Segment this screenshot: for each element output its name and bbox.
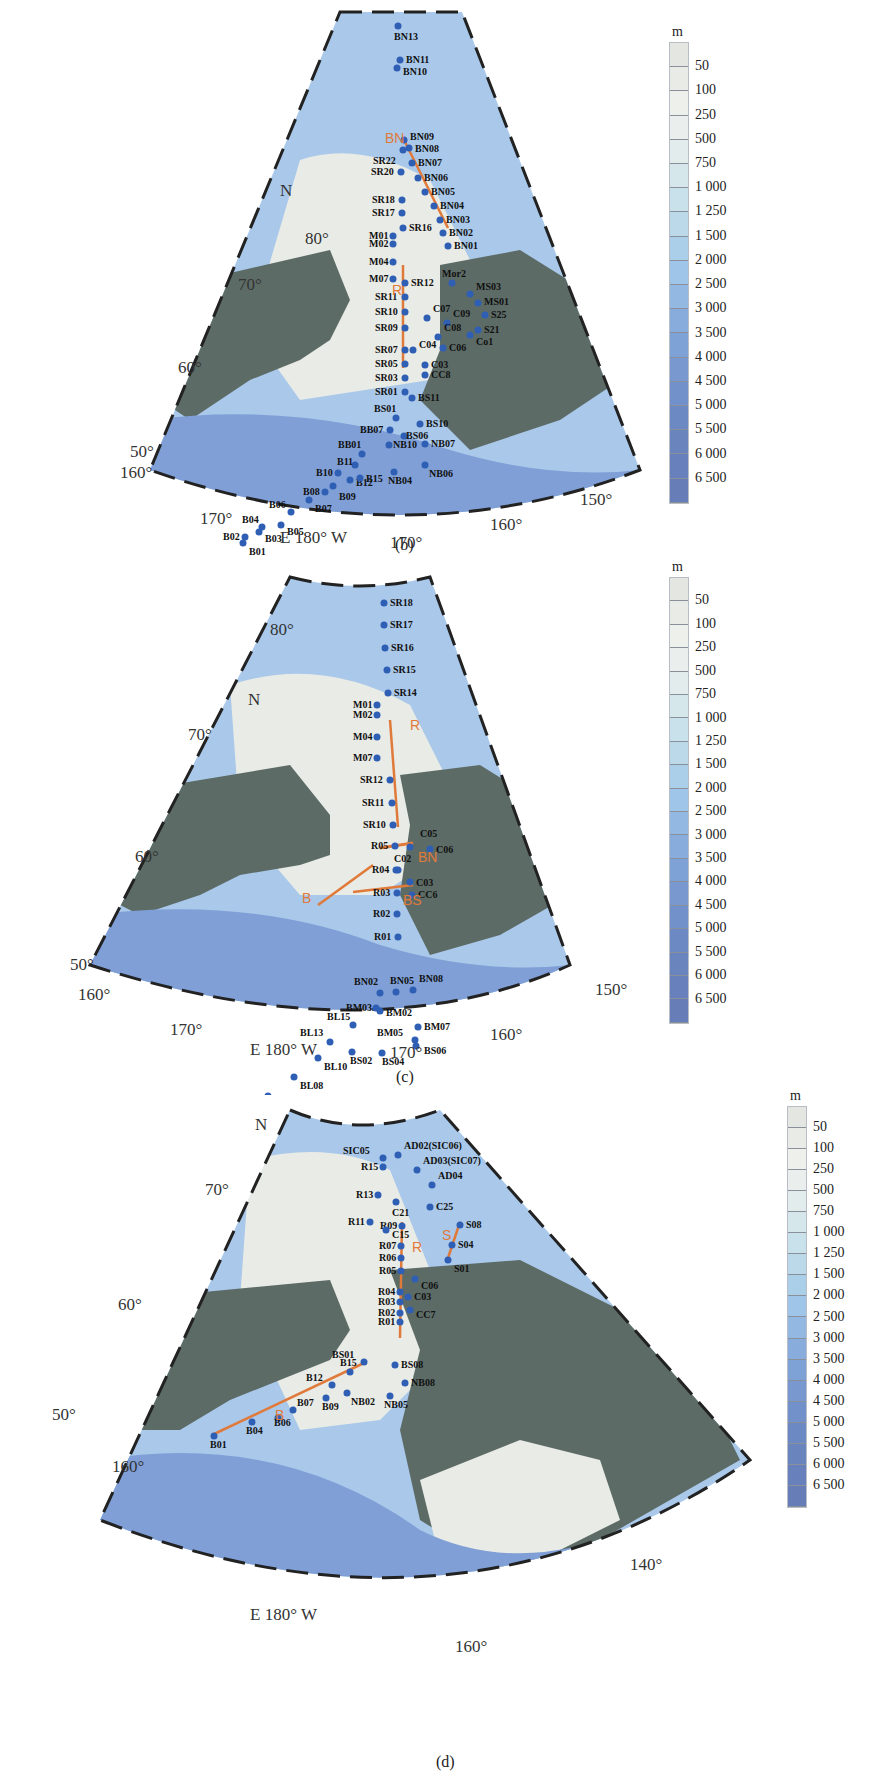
station-marker	[393, 1199, 400, 1206]
station-marker	[347, 1369, 354, 1376]
map-d: SIC05AD02(SIC06)AD03(SIC07)R15AD04R13C21…	[0, 1100, 887, 1790]
lon-label: 170°	[200, 509, 232, 528]
station-label: BS10	[426, 418, 448, 429]
station-label: Co1	[476, 336, 493, 347]
colorbar-tick-label: 1 000	[695, 710, 727, 726]
colorbar-segment	[670, 285, 688, 309]
station-label: NB07	[431, 438, 455, 449]
station-marker	[256, 529, 263, 536]
colorbar-tick-label: 2 500	[695, 276, 727, 292]
panel-caption-d: (d)	[436, 1753, 455, 1771]
station-label: S08	[466, 1219, 482, 1230]
station-label: BN09	[410, 131, 434, 142]
station-label: BM02	[386, 1007, 412, 1018]
section-label-bs: BS	[403, 892, 422, 908]
lon-label: 170°	[170, 1020, 202, 1039]
lon-label: 160°	[78, 985, 110, 1004]
colorbar-segment	[670, 882, 688, 905]
station-marker	[398, 1243, 405, 1250]
colorbar-tick-label: 750	[813, 1203, 834, 1219]
station-label: Mor2	[442, 268, 466, 279]
station-marker	[380, 1155, 387, 1162]
station-marker	[288, 509, 295, 516]
station-marker	[385, 690, 392, 697]
station-label: BL08	[300, 1080, 323, 1091]
station-marker	[395, 23, 402, 30]
station-marker	[393, 989, 400, 996]
colorbar-tick-label: 1 000	[813, 1224, 845, 1240]
station-label: BS08	[401, 1359, 423, 1370]
colorbar-tick-label: 1 250	[695, 203, 727, 219]
lon-label: 160°	[490, 1025, 522, 1044]
colorbar-segment	[788, 1296, 806, 1317]
colorbar-segment	[670, 479, 688, 503]
station-label: SR15	[393, 664, 416, 675]
colorbar-segment	[670, 454, 688, 478]
colorbar-tick-label: 5 000	[813, 1414, 845, 1430]
section-label-s: S	[442, 1227, 451, 1243]
station-label: SR12	[360, 774, 383, 785]
section-label-b: B	[302, 890, 311, 906]
station-marker	[390, 241, 397, 248]
lat-label: 50°	[130, 442, 154, 461]
colorbar-segment	[788, 1128, 806, 1149]
station-marker	[475, 327, 482, 334]
station-marker	[383, 1227, 390, 1234]
station-label: C03	[416, 877, 433, 888]
lat-label: 70°	[205, 1180, 229, 1199]
station-marker	[407, 844, 414, 851]
station-marker	[327, 1039, 334, 1046]
lon-label: E 180° W	[280, 528, 348, 547]
station-marker	[322, 489, 329, 496]
station-label: SR07	[375, 344, 398, 355]
station-marker	[400, 225, 407, 232]
station-marker	[393, 867, 400, 874]
colorbar-tick-label: 6 000	[813, 1456, 845, 1472]
station-label: R01	[374, 931, 391, 942]
colorbar-segment	[788, 1360, 806, 1381]
station-marker	[390, 233, 397, 240]
colorbar-segment	[670, 765, 688, 788]
colorbar-tick-label: 6 500	[695, 991, 727, 1007]
station-marker	[437, 217, 444, 224]
colorbar-segment	[670, 430, 688, 454]
station-label: C25	[436, 1201, 453, 1212]
colorbar-tick-label: 100	[813, 1140, 834, 1156]
station-marker	[410, 347, 417, 354]
station-marker	[398, 1255, 405, 1262]
north-label: N	[248, 690, 260, 709]
map-c: SR18SR17SR16SR15SR14M01M02M04M07SR12SR11…	[0, 565, 887, 1095]
colorbar-tick-label: 2 000	[695, 252, 727, 268]
station-marker	[335, 470, 342, 477]
station-label: SR16	[409, 222, 432, 233]
station-marker	[390, 822, 397, 829]
lon-label: 150°	[595, 980, 627, 999]
colorbar-segment	[670, 742, 688, 765]
station-marker	[422, 362, 429, 369]
colorbar-tick-label: 500	[695, 131, 716, 147]
station-marker	[242, 534, 249, 541]
station-marker	[380, 1164, 387, 1171]
colorbar-segment	[670, 140, 688, 164]
station-label: BB01	[338, 439, 361, 450]
colorbar-tick-label: 3 000	[695, 827, 727, 843]
colorbar-tick-label: 4 000	[695, 873, 727, 889]
station-marker	[467, 291, 474, 298]
station-marker	[402, 309, 409, 316]
station-label: SR10	[363, 819, 386, 830]
station-marker	[412, 1276, 419, 1283]
station-marker	[402, 389, 409, 396]
station-marker	[402, 347, 409, 354]
station-marker	[475, 300, 482, 307]
colorbar-tick-label: 1 500	[695, 228, 727, 244]
colorbar-tick-label: 50	[695, 592, 709, 608]
station-marker	[382, 645, 389, 652]
colorbar-segment	[670, 406, 688, 430]
station-marker	[402, 325, 409, 332]
colorbar-segment	[670, 695, 688, 718]
station-label: NB06	[429, 468, 453, 479]
station-label: B01	[249, 546, 266, 557]
station-label: M07	[353, 752, 372, 763]
colorbar-segment	[788, 1191, 806, 1212]
station-label: CC7	[416, 1309, 435, 1320]
